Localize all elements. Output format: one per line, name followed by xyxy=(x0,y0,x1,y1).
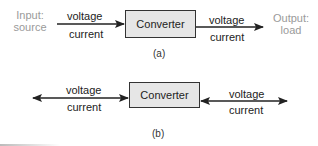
b-left-voltage-label: voltage xyxy=(66,84,101,96)
output-voltage-label: voltage xyxy=(209,14,244,26)
input-current-label: current xyxy=(69,28,103,40)
b-right-current-label: current xyxy=(229,104,263,116)
output-label: Output: load xyxy=(271,12,311,36)
converter-box-b: Converter xyxy=(129,82,200,108)
caption-b: (b) xyxy=(152,128,164,139)
caption-a: (a) xyxy=(153,48,165,59)
input-label-line2: source xyxy=(12,21,48,33)
input-label-line1: Input: xyxy=(12,9,48,21)
input-voltage-label: voltage xyxy=(67,10,102,22)
bottom-rule xyxy=(0,144,60,146)
b-right-voltage-label: voltage xyxy=(229,88,264,100)
output-current-label: current xyxy=(210,31,244,43)
input-label: Input: source xyxy=(12,9,48,33)
converter-box-a: Converter xyxy=(125,10,196,38)
output-label-line1: Output: xyxy=(271,12,311,24)
output-label-line2: load xyxy=(271,24,311,36)
b-left-current-label: current xyxy=(67,101,101,113)
